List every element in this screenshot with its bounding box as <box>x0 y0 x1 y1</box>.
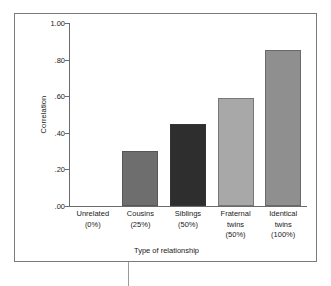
x-axis-tick-label: Cousins (25%) <box>117 209 165 241</box>
bar[interactable] <box>170 124 206 206</box>
x-axis-tick-label: Fraternal twins (50%) <box>212 209 260 241</box>
y-axis-tick-labels: 1.00.80.60.40.20.00 <box>33 14 65 263</box>
bar-slot <box>212 23 260 206</box>
bar[interactable] <box>218 98 254 206</box>
bar-slot <box>259 23 307 206</box>
x-axis-line <box>69 206 307 207</box>
y-axis-tick-mark <box>65 206 70 207</box>
chart-figure: Correlation 1.00.80.60.40.20.00 Unrelate… <box>14 13 317 262</box>
page-rule <box>128 262 129 286</box>
y-axis-tick-label: 1.00 <box>33 19 65 28</box>
y-axis-tick-label: .60 <box>33 92 65 101</box>
y-axis-tick-label: .00 <box>33 202 65 211</box>
plot-area <box>69 23 307 206</box>
x-axis-label: Type of relationship <box>15 246 318 255</box>
x-axis-tick-label: Identical twins (100%) <box>259 209 307 241</box>
y-axis-tick-label: .80 <box>33 55 65 64</box>
bar-series <box>69 23 307 206</box>
y-axis-tick-label: .20 <box>33 165 65 174</box>
bar-slot <box>69 23 117 206</box>
x-axis-tick-label: Unrelated (0%) <box>69 209 117 241</box>
y-axis-tick-label: .40 <box>33 128 65 137</box>
bar[interactable] <box>122 151 158 206</box>
bar-slot <box>164 23 212 206</box>
bar[interactable] <box>265 50 301 206</box>
x-axis-tick-label: Siblings (50%) <box>164 209 212 241</box>
bar-slot <box>117 23 165 206</box>
x-axis-tick-labels: Unrelated (0%)Cousins (25%)Siblings (50%… <box>69 209 307 241</box>
